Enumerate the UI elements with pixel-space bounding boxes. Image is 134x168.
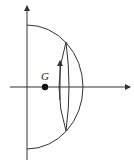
center-of-mass-label: G xyxy=(41,70,49,82)
center-of-mass-point xyxy=(42,84,48,90)
hemisphere-diagram: G xyxy=(0,0,134,168)
